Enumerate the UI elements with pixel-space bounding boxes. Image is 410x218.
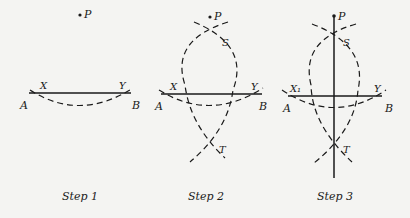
construction-diagram: P X Y A B Step 1 P S T X Y A B Step 2	[0, 0, 410, 218]
label-s: S	[222, 37, 229, 48]
point-p-dot	[78, 13, 81, 16]
label-b: B	[131, 99, 140, 112]
caption-step-3: Step 3	[317, 190, 353, 203]
label-t: T	[343, 144, 351, 155]
label-s: S	[343, 37, 350, 48]
label-p: P	[213, 10, 222, 23]
label-x: X	[169, 81, 178, 92]
label-t: T	[219, 144, 227, 155]
caption-step-1: Step 1	[62, 190, 98, 203]
label-y: Y	[374, 83, 382, 94]
diagram-canvas: P X Y A B Step 1 P S T X Y A B Step 2	[0, 0, 410, 218]
label-p: P	[83, 8, 92, 21]
point-p-dot	[208, 15, 211, 18]
label-p: P	[337, 10, 346, 23]
caption-step-2: Step 2	[188, 190, 224, 203]
label-b: B	[258, 100, 267, 113]
label-a: A	[154, 100, 163, 113]
arc-from-x	[190, 22, 237, 162]
label-y: Y	[251, 81, 259, 92]
label-x: X	[39, 80, 48, 91]
step-2-panel: P S T X Y A B Step 2	[154, 10, 267, 203]
label-x1: X₁	[289, 83, 301, 94]
step-1-panel: P X Y A B Step 1	[19, 8, 140, 203]
label-a: A	[19, 99, 28, 112]
step-3-panel: P S T X₁ Y A B Step 3	[282, 10, 393, 203]
label-a: A	[282, 102, 291, 115]
label-b: B	[384, 102, 393, 115]
label-y: Y	[119, 80, 127, 91]
